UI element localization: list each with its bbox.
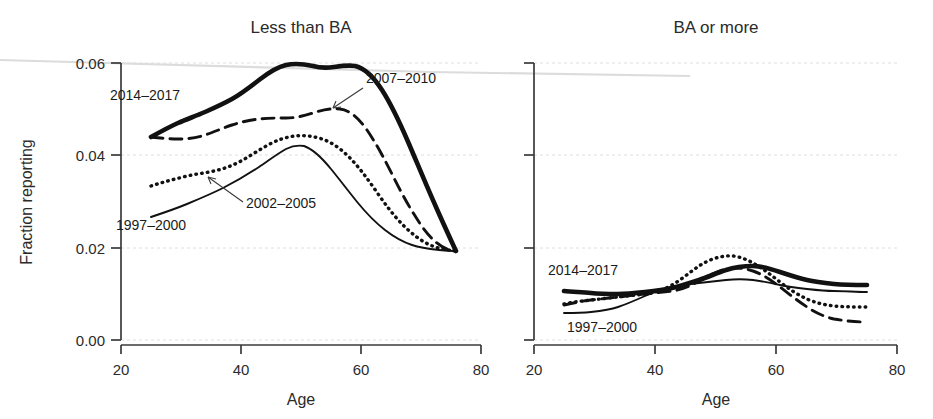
figure-canvas: Less than BA 0.06 0.04 0.02 0.00 20 40 6…: [0, 0, 933, 419]
y-axis-title: Fraction reporting: [18, 139, 35, 264]
y-tick-label-3: 0.06: [76, 55, 105, 72]
y-tick-label-1: 0.02: [76, 240, 105, 257]
x-tick-label-left-80: 80: [473, 361, 490, 378]
x-axis-title-right: Age: [702, 391, 731, 408]
leader-line-2007-2010: [333, 88, 363, 108]
x-tick-label-right-80: 80: [889, 361, 906, 378]
annotation-1997-2000-right: 1997–2000: [567, 319, 637, 335]
annotation-2014-2017-right: 2014–2017: [548, 262, 618, 278]
x-tick-label-right-40: 40: [647, 361, 664, 378]
panel-title-left: Less than BA: [250, 18, 352, 37]
y-tick-label-2: 0.04: [76, 147, 105, 164]
annotation-2002-2005-left: 2002–2005: [246, 195, 316, 211]
panel-less-than-ba: Less than BA 0.06 0.04 0.02 0.00 20 40 6…: [18, 18, 489, 408]
series-line-2014-2017-left: [151, 64, 456, 251]
x-tick-label-left-40: 40: [233, 361, 250, 378]
y-tick-label-0: 0.00: [76, 332, 105, 349]
series-line-2007-2010-left: [151, 109, 456, 251]
x-tick-label-right-20: 20: [526, 361, 543, 378]
x-tick-label-right-60: 60: [768, 361, 785, 378]
x-axis-title-left: Age: [287, 391, 316, 408]
x-tick-label-left-60: 60: [353, 361, 370, 378]
panel-ba-or-more: BA or more 20 40 60 80 Age: [524, 18, 905, 408]
panel-title-right: BA or more: [673, 18, 758, 37]
annotation-2007-2010-left: 2007–2010: [366, 70, 436, 86]
x-tick-label-left-20: 20: [113, 361, 130, 378]
annotation-2014-2017-left: 2014–2017: [110, 87, 180, 103]
annotation-1997-2000-left: 1997–2000: [116, 217, 186, 233]
series-line-2002-2005-left: [151, 136, 456, 251]
